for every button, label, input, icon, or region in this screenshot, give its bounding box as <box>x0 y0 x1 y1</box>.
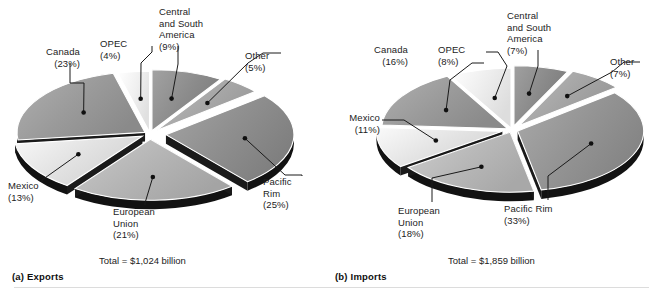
panel-imports: Canada (16%) OPEC (8%) Central and South… <box>332 0 663 300</box>
total-caption-imports: Total = $1,859 billion <box>448 255 535 267</box>
slice-label-other: Other (5%) <box>245 50 297 73</box>
panel-exports: Canada (23%) OPEC (4%) Central and South… <box>0 0 332 300</box>
slice-label-mexico: Mexico (11%) <box>332 112 380 135</box>
slice-label-opec: OPEC (4%) <box>100 38 146 61</box>
slice-label-pacific-rim: Pacific Rim (33%) <box>504 203 574 226</box>
slice-label-european-union: European Union (18%) <box>398 205 460 240</box>
slice-label-other: Other (7%) <box>610 56 658 79</box>
panel-title-imports: (b) Imports <box>335 271 387 282</box>
trade-pie-figure: Canada (23%) OPEC (4%) Central and South… <box>0 0 663 300</box>
slice-label-opec: OPEC (8%) <box>438 44 484 67</box>
panel-title-exports: (a) Exports <box>12 271 64 282</box>
slice-label-european-union: European Union (21%) <box>113 206 175 241</box>
footer-divider <box>14 287 649 288</box>
total-caption-exports: Total = $1,024 billion <box>99 255 186 267</box>
slice-label-canada: Canada (16%) <box>346 44 408 67</box>
slice-label-canada: Canada (23%) <box>18 46 80 69</box>
slice-label-mexico: Mexico (13%) <box>8 180 64 203</box>
slice-label-central-south-america: Central and South America (9%) <box>159 6 229 52</box>
slice-label-pacific-rim: Pacific Rim (25%) <box>263 176 321 211</box>
slice-label-central-south-america: Central and South America (7%) <box>507 10 577 56</box>
